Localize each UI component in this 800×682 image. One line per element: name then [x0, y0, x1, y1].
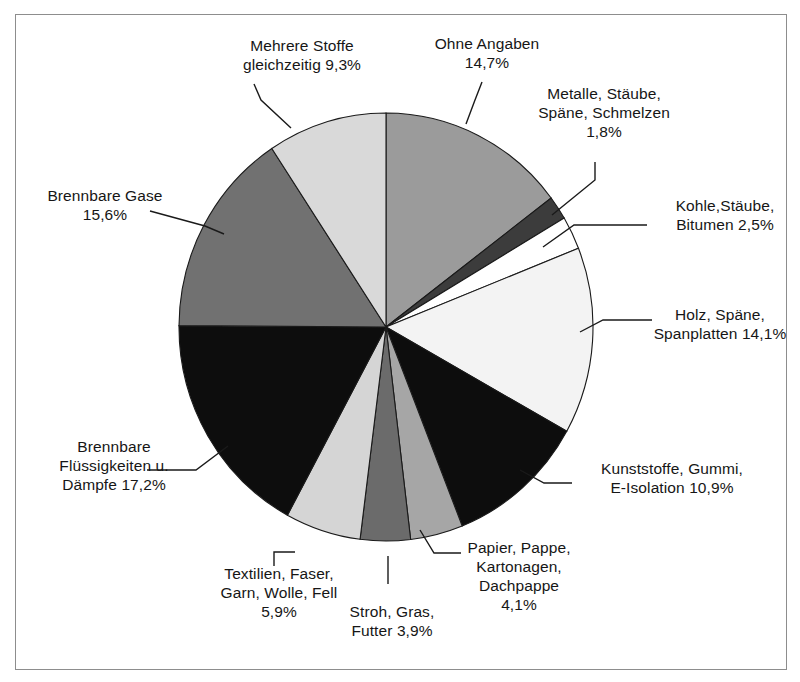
label-line: Holz, Späne,: [640, 305, 800, 324]
label-mehrere-stoffe: Mehrere Stoffegleichzeitig 9,3%: [212, 36, 392, 74]
label-line: 14,7%: [402, 53, 572, 72]
label-line: Brennbare Gase: [14, 186, 196, 205]
label-line: Mehrere Stoffe: [212, 36, 392, 55]
leader-ohne-angaben: [466, 82, 482, 124]
leader-metalle: [552, 162, 595, 215]
label-line: Kunststoffe, Gummi,: [572, 459, 772, 478]
label-ohne-angaben: Ohne Angaben14,7%: [402, 34, 572, 72]
label-line: Kohle,Stäube,: [650, 196, 800, 215]
pie-chart: Mehrere Stoffegleichzeitig 9,3% Ohne Ang…: [0, 0, 800, 682]
label-line: Ohne Angaben: [402, 34, 572, 53]
label-brennbare-fluessigkeiten: BrennbareFlüssigkeiten u.Dämpfe 17,2%: [26, 437, 202, 494]
pie-slices: [179, 113, 593, 541]
label-papier: Papier, Pappe,Kartonagen,Dachpappe4,1%: [444, 538, 594, 614]
label-brennbare-gase: Brennbare Gase15,6%: [14, 186, 196, 224]
label-line: 5,9%: [184, 602, 374, 621]
label-line: Dämpfe 17,2%: [26, 475, 202, 494]
label-line: Späne, Schmelzen: [506, 103, 702, 122]
label-line: Flüssigkeiten u.: [26, 456, 202, 475]
label-line: E-Isolation 10,9%: [572, 478, 772, 497]
label-line: Papier, Pappe,: [444, 538, 594, 557]
label-kunststoffe: Kunststoffe, Gummi,E-Isolation 10,9%: [572, 459, 772, 497]
label-line: Spanplatten 14,1%: [640, 324, 800, 343]
label-line: Bitumen 2,5%: [650, 215, 800, 234]
label-holz: Holz, Späne,Spanplatten 14,1%: [640, 305, 800, 343]
label-line: 1,8%: [506, 122, 702, 141]
label-line: Textilien, Faser,: [184, 564, 374, 583]
label-line: Garn, Wolle, Fell: [184, 583, 374, 602]
label-textilien: Textilien, Faser,Garn, Wolle, Fell5,9%: [184, 564, 374, 621]
leader-mehrere-stoffe: [254, 84, 291, 128]
label-line: Futter 3,9%: [330, 621, 454, 640]
label-line: Kartonagen,: [444, 557, 594, 576]
label-line: 4,1%: [444, 595, 594, 614]
label-line: gleichzeitig 9,3%: [212, 55, 392, 74]
label-metalle: Metalle, Stäube,Späne, Schmelzen1,8%: [506, 84, 702, 141]
label-line: 15,6%: [14, 205, 196, 224]
label-line: Brennbare: [26, 437, 202, 456]
label-line: Metalle, Stäube,: [506, 84, 702, 103]
label-kohle: Kohle,Stäube,Bitumen 2,5%: [650, 196, 800, 234]
label-line: Dachpappe: [444, 576, 594, 595]
